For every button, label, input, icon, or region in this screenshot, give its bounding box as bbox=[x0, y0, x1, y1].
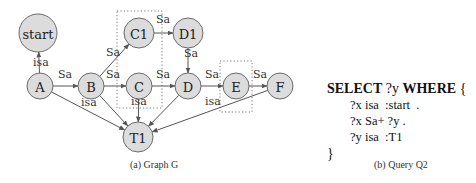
nodes: startABC1CD1DEFT1 bbox=[19, 14, 293, 152]
node-E: E bbox=[223, 73, 249, 99]
svg-text:D1: D1 bbox=[179, 27, 198, 42]
node-F: F bbox=[267, 73, 293, 99]
edge-label-F-T1: isa bbox=[205, 95, 221, 108]
svg-text:F: F bbox=[275, 80, 284, 95]
query-triple-2: ?x Sa+ ?y . bbox=[327, 113, 466, 129]
where-keyword: WHERE bbox=[402, 81, 456, 96]
svg-text:C: C bbox=[134, 80, 144, 95]
node-D: D bbox=[175, 73, 201, 99]
svg-text:B: B bbox=[86, 80, 96, 95]
svg-text:A: A bbox=[34, 80, 45, 95]
edge-label-B-C: Sa bbox=[106, 68, 121, 81]
query-triple-1: ?x isa :start . bbox=[327, 97, 466, 113]
node-D1: D1 bbox=[173, 18, 203, 48]
open-brace: { bbox=[456, 81, 466, 96]
edge-label-A-B: Sa bbox=[58, 68, 73, 81]
edge-label-D1-D: Sa bbox=[184, 47, 199, 60]
edge-D-T1 bbox=[149, 95, 179, 126]
query-caption: (b) Query Q2 bbox=[374, 159, 428, 170]
edge-label-C-D: Sa bbox=[156, 68, 171, 81]
graph-caption: (a) Graph G bbox=[130, 159, 178, 170]
node-C: C bbox=[126, 73, 152, 99]
svg-text:start: start bbox=[22, 27, 54, 42]
edge-label-B-C1: Sa bbox=[106, 46, 121, 59]
node-C1: C1 bbox=[124, 18, 154, 48]
select-variable: ?y bbox=[382, 81, 402, 96]
svg-text:E: E bbox=[231, 80, 241, 95]
edge-label-D-E: Sa bbox=[205, 68, 220, 81]
node-A: A bbox=[27, 73, 53, 99]
graph-diagram: isaSaSaSaisaSaSaisaSaSaSaisa startABC1CD… bbox=[0, 0, 320, 183]
query-triple-3: ?y isa :T1 bbox=[327, 129, 466, 145]
sparql-query: SELECT ?y WHERE { ?x isa :start . ?x Sa+… bbox=[327, 80, 466, 162]
svg-text:C1: C1 bbox=[130, 27, 148, 42]
select-keyword: SELECT bbox=[327, 81, 382, 96]
edge-label-A-start: isa bbox=[33, 56, 49, 69]
edge-B-T1 bbox=[100, 96, 128, 126]
query-select-line: SELECT ?y WHERE { bbox=[327, 80, 466, 97]
svg-text:T1: T1 bbox=[130, 131, 147, 146]
node-start: start bbox=[19, 14, 57, 52]
edge-label-C1-D1: Sa bbox=[156, 13, 171, 26]
node-T1: T1 bbox=[123, 122, 153, 152]
svg-text:D: D bbox=[183, 80, 193, 95]
edge-label-E-F: Sa bbox=[253, 68, 268, 81]
node-B: B bbox=[78, 73, 104, 99]
